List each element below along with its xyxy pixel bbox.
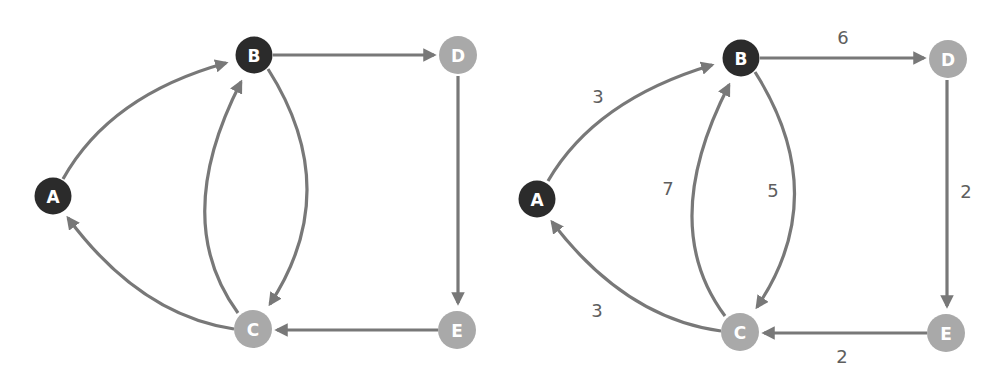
- node-e: E: [438, 311, 476, 349]
- edge-b-c: [268, 69, 307, 304]
- weight-a-b: 3: [592, 86, 603, 107]
- weight-c-b: 7: [662, 178, 673, 199]
- node-a: A: [35, 178, 72, 215]
- weighted-graph: 3 6 7 5 2 3 2 A B C D E: [519, 27, 972, 367]
- node-label-a: A: [530, 190, 544, 210]
- weight-b-d: 6: [837, 27, 848, 48]
- node-label-d: D: [941, 50, 955, 70]
- edge-c-a: [552, 222, 721, 331]
- node-b: B: [236, 37, 273, 74]
- node-d: D: [439, 36, 477, 74]
- node-c: C: [234, 310, 272, 348]
- edge-c-b: [205, 82, 241, 313]
- node-label-e: E: [940, 324, 952, 344]
- unweighted-graph: A B C D E: [35, 36, 478, 349]
- edge-c-b: [692, 85, 729, 316]
- node-a: A: [519, 181, 556, 218]
- edge-a-b: [548, 65, 712, 181]
- graph-diagrams: A B C D E 3 6 7 5 2 3 2: [0, 0, 1006, 390]
- node-c: C: [721, 313, 759, 351]
- node-label-c: C: [734, 323, 746, 343]
- weight-d-e: 2: [960, 181, 971, 202]
- node-label-e: E: [451, 321, 463, 341]
- weight-e-c: 2: [836, 346, 847, 367]
- weight-c-a: 3: [591, 300, 602, 321]
- node-label-b: B: [248, 46, 261, 66]
- node-label-c: C: [247, 320, 259, 340]
- edge-a-b: [63, 63, 226, 179]
- node-label-a: A: [46, 187, 60, 207]
- node-label-b: B: [735, 49, 748, 69]
- node-b: B: [723, 40, 760, 77]
- edge-c-a: [68, 218, 234, 329]
- node-e: E: [927, 314, 965, 352]
- node-label-d: D: [451, 46, 465, 66]
- weight-b-c: 5: [767, 180, 778, 201]
- node-d: D: [929, 40, 967, 78]
